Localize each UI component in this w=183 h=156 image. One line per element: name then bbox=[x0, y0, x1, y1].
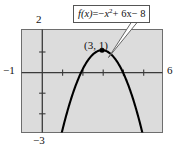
equation-callout-box: f(x)=−x2+ 6x− 8 bbox=[73, 5, 150, 23]
equation-term2: + 6x bbox=[113, 8, 132, 19]
x-axis-left-label: −1 bbox=[3, 65, 15, 76]
x-axis-right-label: 6 bbox=[167, 65, 173, 76]
y-axis-bottom-label: −3 bbox=[33, 135, 45, 146]
y-axis-top-label: 2 bbox=[36, 14, 42, 25]
equation-fx: f(x) bbox=[78, 8, 93, 19]
equation-term3: − 8 bbox=[132, 8, 146, 19]
graph-figure: f(x)=−x2+ 6x− 8 (3, 1) 2 −3 −1 6 bbox=[0, 0, 183, 156]
vertex-label: (3, 1) bbox=[84, 39, 108, 51]
